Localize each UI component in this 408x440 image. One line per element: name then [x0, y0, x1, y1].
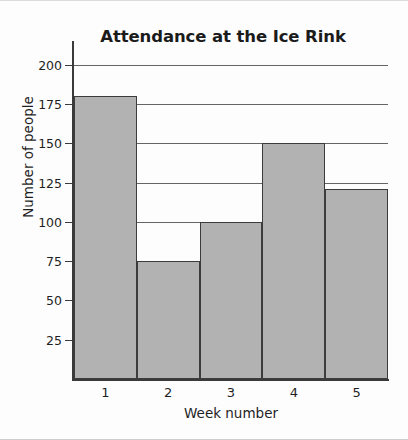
x-tick-label: 4 — [262, 385, 325, 400]
x-axis-line — [72, 379, 389, 381]
bar-chart-figure: Attendance at the Ice Rink Number of peo… — [0, 0, 408, 440]
y-tick-label: 150 — [28, 136, 62, 151]
y-tick-label: 75 — [28, 254, 62, 269]
x-tick-label: 1 — [74, 385, 137, 400]
y-tick-label: 25 — [28, 332, 62, 347]
y-tick-label: 50 — [28, 293, 62, 308]
y-tick-label: 100 — [28, 214, 62, 229]
y-tick-label: 175 — [28, 97, 62, 112]
bar — [200, 222, 263, 379]
x-tick-label: 3 — [200, 385, 263, 400]
bar — [137, 261, 200, 379]
y-tick-label: 125 — [28, 175, 62, 190]
y-tick-label: 200 — [28, 57, 62, 72]
bar — [325, 189, 388, 379]
chart-title: Attendance at the Ice Rink — [0, 27, 408, 46]
y-axis-line — [72, 41, 74, 380]
bar — [262, 143, 325, 379]
x-tick-label: 5 — [325, 385, 388, 400]
x-axis-title: Week number — [74, 405, 388, 421]
bar — [74, 96, 137, 379]
plot-area — [74, 49, 388, 379]
x-tick-label: 2 — [137, 385, 200, 400]
